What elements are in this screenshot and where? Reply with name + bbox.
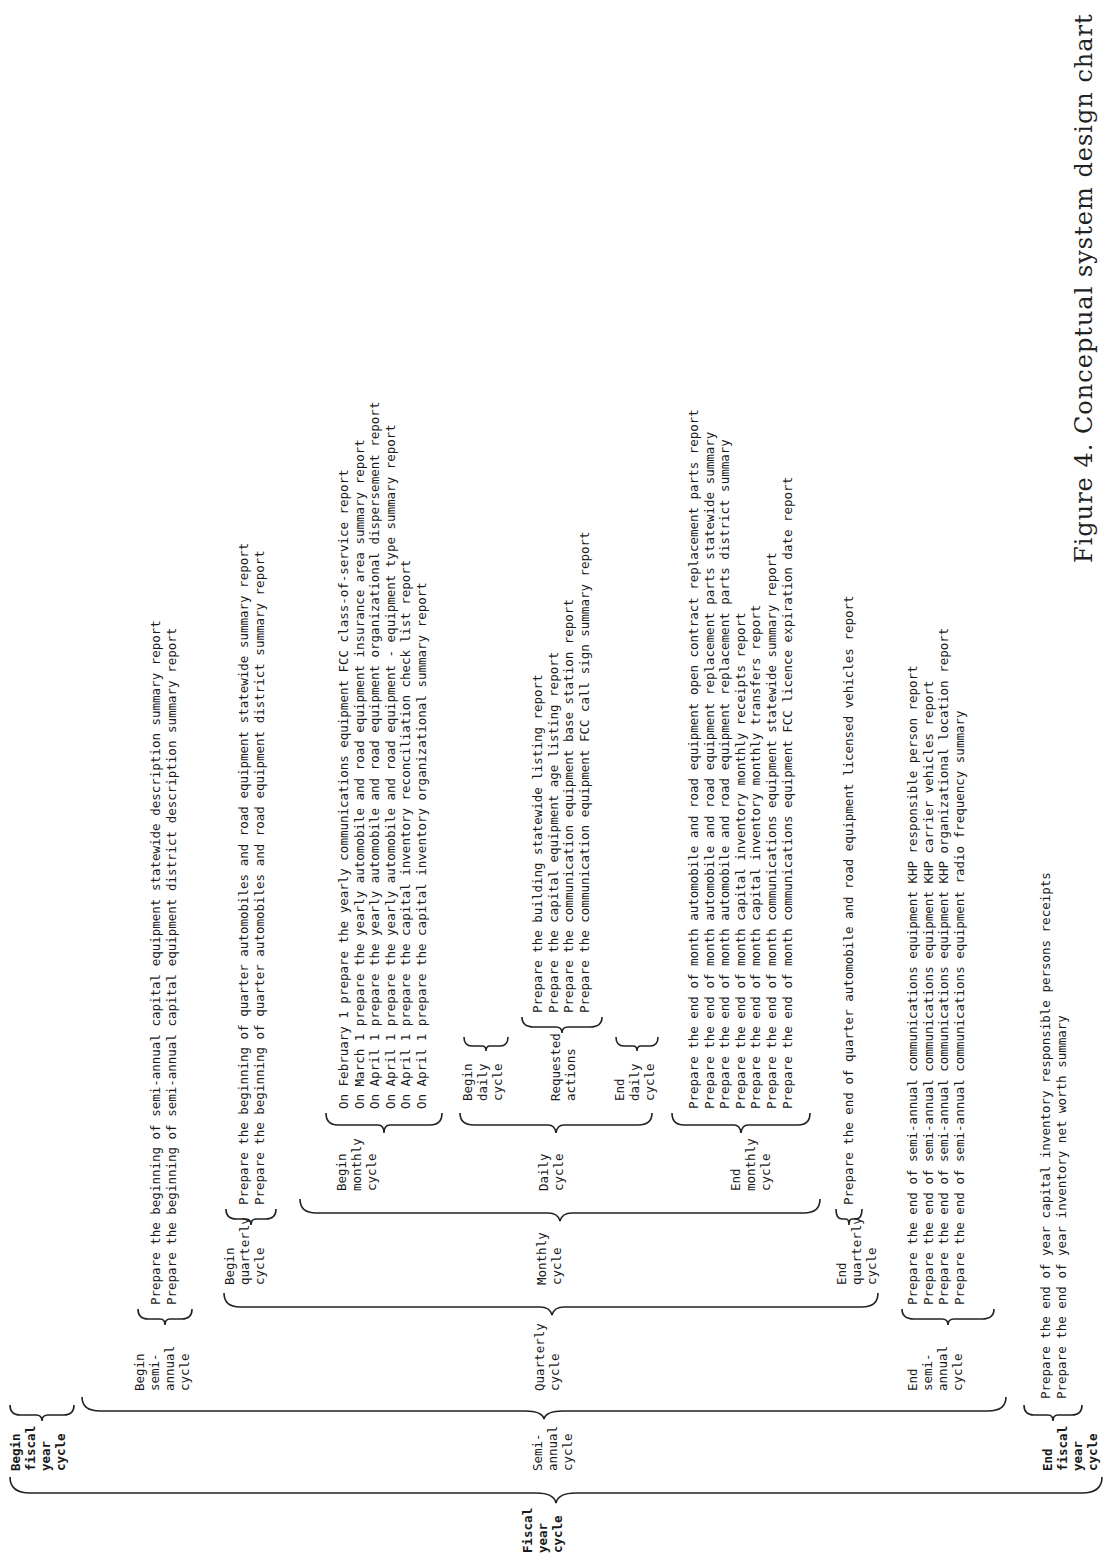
brace-end-daily	[614, 1033, 660, 1051]
figure-caption: Figure 4. Conceptual system design chart	[1070, 13, 1098, 563]
brace-begin-fiscal	[6, 1401, 76, 1421]
requested-actions-reports: Prepare the building statewide listing r…	[530, 531, 592, 1013]
brace-begin-monthly	[322, 1109, 446, 1133]
brace-requested-actions	[520, 1013, 604, 1033]
end-monthly-reports: Prepare the end of month automobile and …	[686, 409, 795, 1109]
node-begin-daily-cycle: Begin daily cycle	[460, 1063, 505, 1101]
brace-begin-semi	[134, 1305, 196, 1325]
node-end-monthly-cycle: End monthly cycle	[728, 1138, 773, 1191]
begin-semi-reports: Prepare the beginning of semi-annual cap…	[148, 620, 179, 1305]
begin-quarterly-reports: Prepare the beginning of quarter automob…	[236, 543, 267, 1205]
end-fiscal-reports: Prepare the end of year capital inventor…	[1038, 872, 1069, 1399]
end-quarterly-reports: Prepare the end of quarter automobile an…	[841, 595, 857, 1205]
brace-end-monthly	[668, 1109, 814, 1133]
begin-monthly-reports: On February 1 prepare the yearly communi…	[336, 402, 430, 1109]
brace-semi-annual	[80, 1393, 1010, 1419]
node-begin-semi-annual-cycle: Begin semi- annual cycle	[132, 1346, 192, 1391]
brace-begin-daily	[462, 1033, 510, 1051]
node-requested-actions: Requested actions	[548, 1033, 578, 1101]
node-end-quarterly-cycle: End quarterly cycle	[834, 1217, 879, 1285]
brace-quarterly	[222, 1289, 882, 1315]
node-semi-annual-cycle: Semi- annual cycle	[530, 1426, 575, 1471]
node-end-semi-annual-cycle: End semi- annual cycle	[905, 1346, 965, 1391]
brace-end-fiscal	[1020, 1401, 1086, 1421]
brace-end-semi	[898, 1305, 998, 1325]
node-begin-monthly-cycle: Begin monthly cycle	[334, 1138, 379, 1191]
node-end-fiscal-year-cycle: End fiscal year cycle	[1040, 1426, 1100, 1471]
end-semi-reports: Prepare the end of semi-annual communica…	[905, 628, 967, 1305]
conceptual-system-design-chart: Fiscal year cycle Begin fiscal year cycl…	[0, 0, 1110, 1563]
brace-fiscal-year	[6, 1473, 1106, 1503]
brace-end-quarterly	[834, 1205, 864, 1225]
brace-daily	[456, 1109, 656, 1133]
node-quarterly-cycle: Quarterly cycle	[532, 1323, 562, 1391]
node-end-daily-cycle: End daily cycle	[612, 1063, 657, 1101]
node-daily-cycle: Daily cycle	[536, 1153, 566, 1191]
node-fiscal-year-cycle: Fiscal year cycle	[520, 1508, 565, 1553]
node-begin-fiscal-year-cycle: Begin fiscal year cycle	[8, 1426, 68, 1471]
brace-monthly	[298, 1195, 822, 1221]
brace-begin-quarterly	[222, 1205, 280, 1225]
node-monthly-cycle: Monthly cycle	[534, 1232, 564, 1285]
node-begin-quarterly-cycle: Begin quarterly cycle	[222, 1217, 267, 1285]
